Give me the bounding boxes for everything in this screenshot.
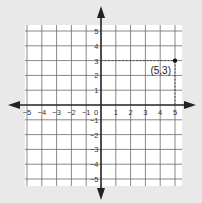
y-axis-down-arrow-icon (97, 188, 105, 200)
point-label: (5,3) (150, 65, 171, 76)
y-tick-label: 2 (94, 71, 98, 80)
x-tick-label: 1 (114, 108, 118, 117)
y-tick-label: −1 (90, 116, 99, 125)
x-axis-right-arrow-icon (184, 101, 196, 109)
y-tick-label: −2 (90, 131, 99, 140)
y-axis-up-arrow-icon (97, 6, 105, 18)
y-tick-label: 5 (94, 27, 98, 36)
x-tick-label: 4 (158, 108, 162, 117)
y-tick-label: −3 (90, 145, 99, 154)
x-tick-label: 5 (173, 108, 177, 117)
x-tick-label: 2 (129, 108, 133, 117)
y-tick-label: −4 (90, 160, 99, 169)
y-tick-label: 3 (94, 57, 98, 66)
y-tick-label: 1 (94, 86, 98, 95)
coordinate-plane: −5−4−3−2−1012345−5−4−3−2−112345(5,3) (0, 0, 202, 203)
x-tick-label: −3 (52, 108, 61, 117)
x-tick-label: −5 (23, 108, 32, 117)
plotted-point (173, 58, 177, 62)
x-tick-label: −2 (67, 108, 76, 117)
y-tick-label: 4 (94, 42, 98, 51)
x-tick-label: −4 (38, 108, 47, 117)
x-tick-label: 3 (143, 108, 147, 117)
x-axis-left-arrow-icon (8, 101, 20, 109)
y-tick-label: −5 (90, 175, 99, 184)
